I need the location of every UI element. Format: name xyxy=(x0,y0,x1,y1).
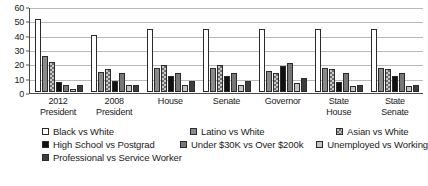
bar xyxy=(119,73,125,92)
bar xyxy=(287,63,293,92)
bar xyxy=(63,85,69,92)
bar xyxy=(371,29,377,92)
y-tick-label-20: 20 xyxy=(14,61,24,70)
legend-item[interactable]: Under $30K vs Over $200k xyxy=(180,139,316,150)
bar xyxy=(161,65,167,92)
legend-swatch-icon xyxy=(316,141,323,148)
bar xyxy=(154,68,160,92)
legend-label: Black vs White xyxy=(53,126,114,137)
bar-chart: 0102030405060 2012President2008President… xyxy=(0,0,428,186)
legend-item[interactable]: Black vs White xyxy=(42,126,190,137)
bar xyxy=(357,85,363,92)
y-tick-label-0: 0 xyxy=(19,90,24,99)
bar xyxy=(203,29,209,92)
bar-group xyxy=(87,8,143,92)
plot-area xyxy=(29,8,423,94)
legend-swatch-icon xyxy=(180,141,187,148)
bar xyxy=(259,29,265,92)
bar xyxy=(42,56,48,92)
legend-swatch-icon xyxy=(190,128,197,135)
bar xyxy=(112,81,118,92)
plot-wrapper: 0102030405060 2012President2008President… xyxy=(0,0,428,124)
bar xyxy=(210,68,216,92)
bar-group xyxy=(31,8,87,92)
x-label-line: House xyxy=(142,96,198,107)
bar xyxy=(217,65,223,92)
bar xyxy=(56,82,62,92)
legend-item[interactable]: Latino vs White xyxy=(190,126,336,137)
bar xyxy=(168,76,174,92)
bar xyxy=(329,69,335,92)
x-label-line: Senate xyxy=(198,96,254,107)
x-label-line: 2008 xyxy=(86,96,142,107)
y-tick-label-50: 50 xyxy=(14,18,24,27)
bar xyxy=(70,89,76,92)
bar xyxy=(133,85,139,92)
bar xyxy=(77,85,83,92)
bar xyxy=(406,86,412,92)
bar-group xyxy=(311,8,367,92)
x-label-5: StateHouse xyxy=(311,96,367,118)
legend-label: Professional vs Service Worker xyxy=(53,152,182,163)
x-axis-labels: 2012President2008PresidentHouseSenateGov… xyxy=(30,96,423,118)
bar xyxy=(399,73,405,92)
legend-label: Unemployed vs Working xyxy=(327,139,428,150)
x-label-line: House xyxy=(311,107,367,118)
bar xyxy=(189,81,195,92)
bar xyxy=(350,86,356,92)
x-label-line: 2012 xyxy=(30,96,86,107)
bar xyxy=(280,66,286,92)
x-label-3: Senate xyxy=(198,96,254,118)
legend-item[interactable]: Professional vs Service Worker xyxy=(42,152,190,163)
x-label-line: Governor xyxy=(255,96,311,107)
legend-swatch-icon xyxy=(42,154,49,161)
legend-swatch-icon xyxy=(42,128,49,135)
bar xyxy=(413,85,419,92)
x-label-line: President xyxy=(86,107,142,118)
legend-item[interactable]: Unemployed vs Working xyxy=(316,139,428,150)
y-tick-label-30: 30 xyxy=(14,47,24,56)
legend-label: Under $30K vs Over $200k xyxy=(191,139,303,150)
bar xyxy=(385,69,391,92)
bar-group xyxy=(367,8,423,92)
x-label-line: Senate xyxy=(367,107,423,118)
chart-legend: Black vs WhiteLatino vs WhiteAsian vs Wh… xyxy=(0,126,428,165)
x-label-4: Governor xyxy=(255,96,311,118)
bar xyxy=(378,68,384,92)
bar xyxy=(266,71,272,93)
bar xyxy=(315,29,321,92)
bar xyxy=(126,85,132,92)
y-axis: 0102030405060 xyxy=(0,8,26,94)
legend-label: Asian vs White xyxy=(347,126,408,137)
bar xyxy=(392,76,398,92)
legend-item[interactable]: High School vs Postgrad xyxy=(42,139,180,150)
x-label-line: State xyxy=(311,96,367,107)
bar xyxy=(336,82,342,92)
y-tick-label-10: 10 xyxy=(14,75,24,84)
bar-groups xyxy=(31,8,423,92)
legend-item[interactable]: Asian vs White xyxy=(336,126,408,137)
legend-label: Latino vs White xyxy=(201,126,264,137)
legend-row: Black vs WhiteLatino vs WhiteAsian vs Wh… xyxy=(42,126,428,137)
legend-row: Professional vs Service Worker xyxy=(42,152,428,163)
x-label-0: 2012President xyxy=(30,96,86,118)
bar xyxy=(294,83,300,92)
x-label-line: President xyxy=(30,107,86,118)
y-tick-label-40: 40 xyxy=(14,32,24,41)
bar xyxy=(238,85,244,92)
legend-row: High School vs PostgradUnder $30K vs Ove… xyxy=(42,139,428,150)
x-label-line: State xyxy=(367,96,423,107)
bar xyxy=(91,35,97,92)
bar xyxy=(231,73,237,92)
bar xyxy=(105,69,111,92)
bar xyxy=(175,73,181,92)
bar-group xyxy=(143,8,199,92)
bar-group xyxy=(255,8,311,92)
bar xyxy=(322,68,328,92)
y-tick-label-60: 60 xyxy=(14,4,24,13)
x-label-1: 2008President xyxy=(86,96,142,118)
bar xyxy=(273,73,279,92)
bar xyxy=(49,62,55,92)
bar xyxy=(182,85,188,92)
bar xyxy=(224,76,230,92)
